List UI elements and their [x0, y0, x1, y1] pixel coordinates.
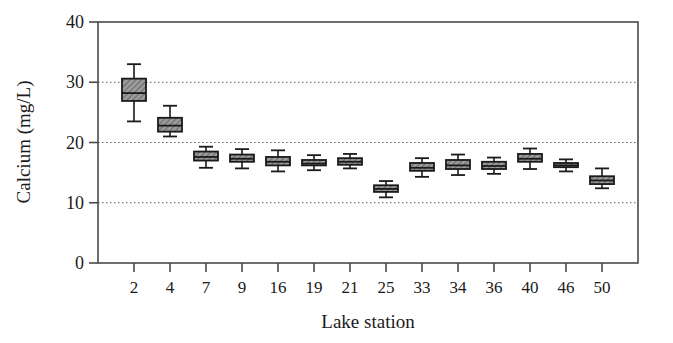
x-tick-label-50: 50	[594, 278, 611, 297]
x-tick-label-33: 33	[414, 278, 431, 297]
x-tick-label-7: 7	[202, 278, 211, 297]
x-tick-label-34: 34	[450, 278, 468, 297]
y-tick-label-10: 10	[66, 193, 84, 213]
x-tick-label-2: 2	[130, 278, 139, 297]
box-iqr	[410, 163, 434, 171]
y-axis-title: Calcium (mg/L)	[13, 81, 35, 204]
box-iqr	[518, 154, 542, 162]
box-iqr	[194, 152, 218, 161]
box-iqr	[446, 160, 470, 169]
x-tick-label-19: 19	[306, 278, 323, 297]
y-tick-label-20: 20	[66, 133, 84, 153]
box-iqr	[122, 79, 146, 101]
x-tick-label-46: 46	[558, 278, 575, 297]
y-tick-label-30: 30	[66, 72, 84, 92]
x-tick-label-25: 25	[378, 278, 395, 297]
box-iqr	[302, 160, 326, 165]
x-tick-label-4: 4	[166, 278, 175, 297]
x-tick-label-40: 40	[522, 278, 539, 297]
y-tick-label-40: 40	[66, 12, 84, 32]
x-axis-title: Lake station	[321, 311, 415, 332]
x-tick-label-9: 9	[238, 278, 247, 297]
box-iqr	[158, 118, 182, 132]
x-tick-label-36: 36	[486, 278, 503, 297]
x-tick-label-21: 21	[342, 278, 359, 297]
y-tick-label-0: 0	[75, 253, 84, 273]
calcium-by-lake-station-chart: 010203040 247916192125333436404650 Calci…	[0, 0, 673, 343]
box-plot-figure: 010203040 247916192125333436404650 Calci…	[0, 0, 673, 343]
x-tick-label-16: 16	[270, 278, 287, 297]
